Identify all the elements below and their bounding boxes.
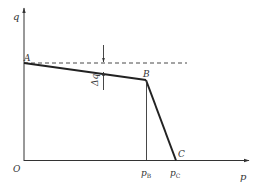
segment-ab [24, 63, 146, 80]
pc-tick-label: pC [170, 168, 181, 179]
point-c-label: C [178, 149, 185, 159]
origin-label: O [13, 164, 21, 174]
point-b-label: B [142, 69, 150, 79]
point-a-label: A [23, 53, 31, 63]
pb-tick-label: pB [141, 168, 152, 179]
y-axis-label: q [13, 11, 19, 22]
pc-sub: C [176, 172, 181, 179]
delta-q-label: Δq [90, 74, 100, 87]
segment-bc [146, 80, 176, 161]
x-axis-label: p [240, 171, 247, 182]
q-p-diagram: q p O A B C Δq pB pC [0, 0, 258, 189]
pb-sub: B [147, 172, 152, 179]
